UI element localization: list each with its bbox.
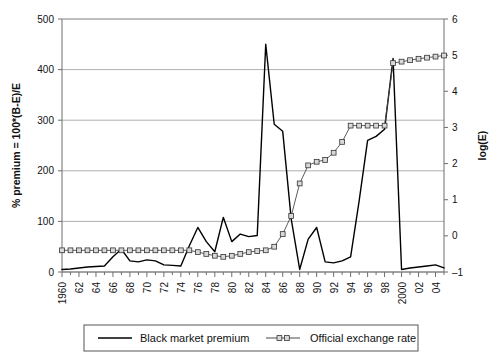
y-tick-label-left-300: 300 — [37, 115, 54, 126]
series-marker-official-exchange-rate — [246, 250, 251, 255]
series-marker-official-exchange-rate — [77, 248, 82, 253]
x-tick-label-2000: 2000 — [397, 282, 408, 305]
series-marker-official-exchange-rate — [144, 248, 149, 253]
x-tick-label-70: 70 — [142, 282, 153, 294]
series-marker-official-exchange-rate — [433, 54, 438, 59]
series-marker-official-exchange-rate — [314, 159, 319, 164]
y-tick-label-left-200: 200 — [37, 165, 54, 176]
x-tick-label-74: 74 — [176, 282, 187, 294]
chart-container: 0100200300400500–10123456196062646668707… — [0, 0, 502, 359]
series-marker-official-exchange-rate — [408, 58, 413, 63]
series-marker-official-exchange-rate — [94, 248, 99, 253]
y-axis-left-title: % premium = 100*(B-E)/E — [10, 83, 22, 208]
series-group — [60, 44, 447, 269]
series-marker-official-exchange-rate — [60, 248, 65, 253]
x-tick-label-04: 04 — [431, 282, 442, 294]
series-marker-official-exchange-rate — [297, 181, 302, 186]
series-marker-official-exchange-rate — [263, 248, 268, 253]
y-tick-label-right-4: 4 — [452, 86, 458, 97]
series-marker-official-exchange-rate — [136, 248, 141, 253]
series-marker-official-exchange-rate — [229, 253, 234, 258]
x-tick-label-64: 64 — [91, 282, 102, 294]
series-marker-official-exchange-rate — [323, 158, 328, 163]
series-marker-official-exchange-rate — [255, 249, 260, 254]
series-marker-official-exchange-rate — [161, 248, 166, 253]
x-tick-label-96: 96 — [363, 282, 374, 294]
x-tick-label-80: 80 — [227, 282, 238, 294]
y-tick-label-right-3: 3 — [452, 122, 458, 133]
series-marker-official-exchange-rate — [416, 56, 421, 61]
gridlines-group — [62, 19, 444, 272]
series-marker-official-exchange-rate — [331, 150, 336, 155]
series-marker-official-exchange-rate — [178, 248, 183, 253]
series-marker-official-exchange-rate — [272, 244, 277, 249]
y-axis-right-title: log(E) — [476, 131, 488, 161]
series-marker-official-exchange-rate — [204, 252, 209, 257]
premium-exchange-rate-chart: 0100200300400500–10123456196062646668707… — [0, 0, 502, 359]
series-marker-official-exchange-rate — [119, 248, 124, 253]
series-marker-official-exchange-rate — [102, 248, 107, 253]
x-tick-label-86: 86 — [278, 282, 289, 294]
series-marker-official-exchange-rate — [221, 254, 226, 259]
x-tick-label-94: 94 — [346, 282, 357, 294]
series-marker-official-exchange-rate — [365, 123, 370, 128]
series-marker-official-exchange-rate — [68, 248, 73, 253]
series-marker-official-exchange-rate — [442, 53, 447, 58]
x-tick-label-76: 76 — [193, 282, 204, 294]
x-tick-label-66: 66 — [108, 282, 119, 294]
y-tick-label-left-400: 400 — [37, 64, 54, 75]
series-marker-official-exchange-rate — [170, 248, 175, 253]
series-marker-official-exchange-rate — [289, 214, 294, 219]
series-marker-official-exchange-rate — [382, 123, 387, 128]
y-tick-label-right-0: 0 — [452, 230, 458, 241]
series-marker-official-exchange-rate — [111, 248, 116, 253]
y-tick-label-left-100: 100 — [37, 216, 54, 227]
legend-label-black-market-premium: Black market premium — [140, 332, 249, 344]
series-line-black-market-premium — [62, 44, 444, 269]
series-line-official-exchange-rate — [62, 56, 444, 257]
series-marker-official-exchange-rate — [238, 252, 243, 257]
axes-group: 0100200300400500–10123456196062646668707… — [37, 14, 463, 305]
x-tick-label-72: 72 — [159, 282, 170, 294]
x-tick-label-90: 90 — [312, 282, 323, 294]
series-marker-official-exchange-rate — [306, 163, 311, 168]
series-marker-official-exchange-rate — [85, 248, 90, 253]
series-marker-official-exchange-rate — [212, 253, 217, 258]
x-tick-label-84: 84 — [261, 282, 272, 294]
x-tick-label-88: 88 — [295, 282, 306, 294]
series-marker-official-exchange-rate — [187, 248, 192, 253]
series-marker-official-exchange-rate — [399, 59, 404, 64]
y-tick-label-right-5: 5 — [452, 50, 458, 61]
x-tick-label-92: 92 — [329, 282, 340, 294]
y-tick-label-right-6: 6 — [452, 14, 458, 25]
series-marker-official-exchange-rate — [195, 250, 200, 255]
x-tick-label-1960: 1960 — [57, 282, 68, 305]
y-tick-label-right-1: 1 — [452, 194, 458, 205]
legend-marker-square-2 — [285, 336, 290, 341]
series-marker-official-exchange-rate — [280, 232, 285, 237]
series-marker-official-exchange-rate — [128, 248, 133, 253]
series-marker-official-exchange-rate — [374, 123, 379, 128]
legend-marker-square-1 — [277, 336, 282, 341]
series-marker-official-exchange-rate — [357, 123, 362, 128]
series-marker-official-exchange-rate — [340, 139, 345, 144]
y-tick-label-left-0: 0 — [48, 267, 54, 278]
series-marker-official-exchange-rate — [391, 61, 396, 66]
series-marker-official-exchange-rate — [153, 248, 158, 253]
x-tick-label-02: 02 — [414, 282, 425, 294]
y-tick-label-left-500: 500 — [37, 14, 54, 25]
x-tick-label-98: 98 — [380, 282, 391, 294]
y-tick-label-right-2: 2 — [452, 158, 458, 169]
legend-label-official-exchange-rate: Official exchange rate — [310, 332, 416, 344]
series-marker-official-exchange-rate — [348, 123, 353, 128]
x-tick-label-82: 82 — [244, 282, 255, 294]
y-tick-label-right--1: –1 — [452, 267, 464, 278]
x-tick-label-68: 68 — [125, 282, 136, 294]
x-tick-label-62: 62 — [74, 282, 85, 294]
x-tick-label-78: 78 — [210, 282, 221, 294]
legend: Black market premiumOfficial exchange ra… — [84, 325, 418, 351]
series-marker-official-exchange-rate — [425, 55, 430, 60]
